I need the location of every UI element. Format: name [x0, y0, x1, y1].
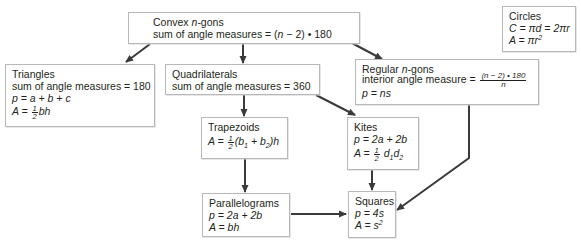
parallelograms-area: A = bh: [209, 221, 283, 233]
node-circles: Circles C = πd = 2πr A = πr2: [502, 6, 576, 52]
edge-convex-triangles: [126, 44, 150, 62]
trapezoids-area: A = 12(b1 + b2)h: [208, 135, 281, 150]
trapezoids-title: Trapezoids: [208, 121, 281, 133]
node-regular-ngons: Regular n-gons interior angle measure = …: [355, 59, 539, 105]
node-squares: Squares p = 4s A = s2: [348, 191, 396, 238]
circles-title: Circles: [509, 10, 569, 22]
kites-area: A = 12 d1d2: [354, 147, 412, 162]
node-parallelograms: Parallelograms p = 2a + 2b A = bh: [202, 193, 290, 237]
squares-perimeter: p = 4s: [355, 207, 389, 219]
squares-title: Squares: [355, 195, 389, 207]
kites-perimeter: p = 2a + 2b: [354, 133, 412, 145]
node-quadrilaterals: Quadrilaterals sum of angle measures = 3…: [165, 64, 320, 95]
triangles-area: A = 12bh: [12, 105, 148, 120]
node-kites: Kites p = 2a + 2b A = 12 d1d2: [347, 117, 419, 170]
edge-convex-regular: [350, 42, 382, 59]
triangles-perimeter: p = a + b + c: [12, 92, 148, 104]
parallelograms-title: Parallelograms: [209, 197, 283, 209]
circles-area: A = πr2: [509, 34, 569, 46]
quadrilaterals-angle-sum: sum of angle measures = 360: [172, 80, 313, 92]
edge-quadrilaterals-kites: [316, 95, 355, 115]
kites-title: Kites: [354, 121, 412, 133]
triangles-title: Triangles: [12, 68, 148, 80]
convex-angle-sum: sum of angle measures = (n − 2) • 180: [153, 28, 353, 40]
node-trapezoids: Trapezoids A = 12(b1 + b2)h: [201, 117, 288, 159]
node-triangles: Triangles sum of angle measures = 180 p …: [5, 64, 155, 127]
squares-area: A = s2: [355, 219, 389, 231]
node-convex-ngons: Convex n-gons sum of angle measures = (n…: [128, 12, 360, 44]
quadrilaterals-title: Quadrilaterals: [172, 68, 313, 80]
circles-circumference: C = πd = 2πr: [509, 22, 569, 34]
parallelograms-perimeter: p = 2a + 2b: [209, 209, 283, 221]
convex-title: Convex n-gons: [153, 16, 353, 28]
triangles-angle-sum: sum of angle measures = 180: [12, 80, 148, 92]
